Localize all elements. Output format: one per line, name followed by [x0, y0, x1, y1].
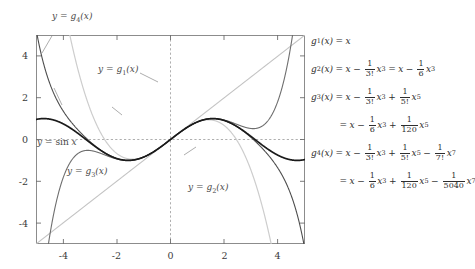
frac-1-120: 1 120	[401, 172, 418, 190]
ytick-label-2: 2	[8, 92, 28, 103]
curve-label-g4: y = g4(x)	[52, 11, 92, 24]
xtick-label-neg4: -4	[51, 250, 76, 261]
curve-label-sin: y = sin x	[37, 137, 77, 147]
xtick-label-4: 4	[265, 250, 290, 261]
formula-g2: g2(x) = x − 1 3! x3 = x − 1 6 x3	[311, 55, 475, 83]
ytick-label-0: 0	[8, 134, 28, 145]
curve-label-g3: y = g3(x)	[67, 166, 107, 179]
curve-label-g1: y = g1(x)	[98, 64, 138, 77]
formula-g1: g1(x) = x	[311, 27, 475, 55]
ytick-label-4: 4	[8, 50, 28, 61]
y-axis-ticks-right	[300, 56, 305, 223]
formula-g3: g3(x) = x − 1 3! x3 + 1 5! x5	[311, 83, 475, 111]
x-axis-ticks	[63, 239, 277, 244]
frac-1-5fact: 1 5!	[400, 144, 410, 162]
formula-list: g1(x) = x g2(x) = x − 1 3! x3 = x − 1 6 …	[311, 27, 475, 195]
formula-g3-expanded: = x − 1 6 x3 + 1 120 x5	[311, 111, 475, 139]
ytick-label-neg2: -2	[4, 176, 28, 187]
frac-1-6: 1 6	[369, 116, 376, 134]
frac-1-5fact: 1 5!	[400, 88, 410, 106]
xtick-label-0: 0	[158, 250, 183, 261]
frac-1-5040: 1 5040	[443, 172, 465, 190]
frac-1-6: 1 6	[417, 60, 424, 78]
xtick-label-2: 2	[212, 250, 237, 261]
frac-1-3fact: 1 3!	[365, 144, 375, 162]
xtick-label-neg2: -2	[104, 250, 129, 261]
formula-g4-expanded: = x − 1 6 x3 + 1 120 x5 − 1 5040 x7	[311, 167, 475, 195]
chart-page: y = g4(x) y = g1(x) y = sin x y = g3(x) …	[0, 0, 475, 269]
frac-1-7fact: 1 7!	[435, 144, 445, 162]
ytick-label-neg4: -4	[4, 218, 28, 229]
frac-1-3fact: 1 3!	[365, 60, 375, 78]
curve-label-g2: y = g2(x)	[188, 182, 228, 195]
x-axis-ticks-top	[63, 35, 277, 40]
formula-g4: g4(x) = x − 1 3! x3 + 1 5! x5 − 1 7! x7	[311, 139, 475, 167]
frac-1-3fact: 1 3!	[365, 88, 375, 106]
frac-1-6: 1 6	[369, 172, 376, 190]
plot-area: y = g4(x) y = g1(x) y = sin x y = g3(x) …	[36, 35, 305, 244]
frac-1-120: 1 120	[401, 116, 418, 134]
